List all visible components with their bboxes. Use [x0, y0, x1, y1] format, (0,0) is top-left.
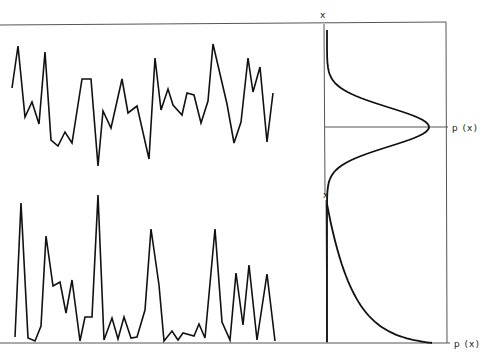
exponential-pdf-curve	[327, 204, 432, 343]
bottom-px-axis-label: p (x)	[454, 339, 480, 349]
top-px-axis-label: p (x)	[452, 123, 478, 133]
top-x-axis-label: x	[320, 10, 326, 20]
figure-canvas: x p (x) x p (x)	[0, 0, 492, 354]
top-border-line	[0, 22, 446, 25]
right-border-line	[446, 22, 447, 343]
top-x-axis-vertical	[324, 24, 325, 195]
gaussian-pdf-curve	[327, 30, 429, 342]
exponential-signal-trace	[15, 195, 275, 341]
gaussian-signal-trace	[12, 44, 273, 166]
bottom-x-axis-label: x	[323, 190, 329, 200]
